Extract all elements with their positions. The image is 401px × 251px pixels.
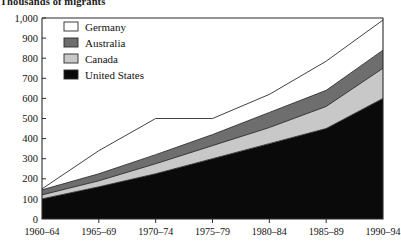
x-axis-tick-label: 1980–84 [252, 226, 287, 237]
y-axis-tick-label: 100 [22, 194, 38, 205]
y-axis-tick-label: 500 [22, 113, 38, 124]
chart-legend: GermanyAustraliaCanadaUnited States [64, 21, 144, 81]
y-axis-tick-marks [42, 18, 46, 199]
y-axis-tick-label: 800 [22, 53, 38, 64]
legend-swatch-united-states [64, 70, 78, 79]
y-axis-tick-label: 900 [22, 33, 38, 44]
y-axis-tick-label: 600 [22, 93, 38, 104]
stacked-area-series [42, 20, 383, 219]
legend-label-united-states: United States [85, 69, 144, 81]
legend-swatch-canada [64, 54, 78, 63]
x-axis-tick-label: 1965–69 [81, 226, 116, 237]
legend-label-canada: Canada [85, 53, 118, 65]
x-axis-tick-label: 1970–74 [138, 226, 173, 237]
x-axis-tick-label: 1985–89 [309, 226, 344, 237]
y-axis-tick-label: 200 [22, 173, 38, 184]
y-axis-tick-label: 0 [33, 214, 38, 225]
y-axis-tick-label: 700 [22, 73, 38, 84]
x-axis-tick-marks [99, 219, 326, 223]
legend-label-australia: Australia [85, 37, 125, 49]
area-chart-svg: 1,0009008007006005004003002001000 1960–6… [0, 0, 401, 251]
chart-container: Thousands of migrants 1,0009008007006005… [0, 0, 401, 251]
x-axis-tick-label: 1975–79 [195, 226, 230, 237]
x-axis-tick-labels: 1960–641965–691970–741975–791980–841985–… [25, 226, 401, 237]
legend-swatch-germany [64, 22, 78, 31]
x-axis-tick-label: 1960–64 [25, 226, 60, 237]
legend-label-germany: Germany [85, 21, 126, 33]
y-axis-tick-labels: 1,0009008007006005004003002001000 [14, 13, 38, 225]
x-axis-tick-label: 1990–94 [366, 226, 401, 237]
y-axis-tick-label: 1,000 [14, 13, 38, 24]
legend-swatch-australia [64, 38, 78, 47]
y-axis-tick-label: 400 [22, 133, 38, 144]
y-axis-tick-label: 300 [22, 153, 38, 164]
